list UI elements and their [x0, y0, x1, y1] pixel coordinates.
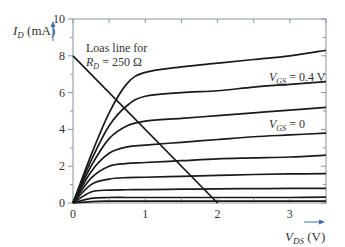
- x-axis-arrow-icon: [304, 220, 325, 225]
- load-line-label: Loas line for: [86, 41, 147, 55]
- y-tick-label: 2: [59, 159, 65, 173]
- y-axis-label: ID (mA): [12, 23, 55, 40]
- drain-curve: [73, 133, 326, 203]
- load-line-resistance-label: RD = 250 Ω: [85, 55, 142, 71]
- x-tick-label: 0: [70, 207, 76, 221]
- vgs-0.4-label: VGS = 0.4 V: [269, 70, 326, 86]
- x-axis-label: VDS (V): [285, 229, 325, 246]
- mosfet-characteristics-chart: 02468100123 ID (mA) VDS (V) Loas line fo…: [0, 0, 345, 247]
- y-tick-label: 0: [59, 196, 65, 210]
- y-tick-label: 8: [59, 49, 65, 63]
- y-tick-label: 4: [59, 122, 65, 136]
- load-line: [73, 56, 218, 203]
- x-tick-label: 3: [287, 207, 293, 221]
- drain-curve: [73, 197, 326, 203]
- y-tick-label: 6: [59, 86, 65, 100]
- vgs-0-label: VGS = 0: [269, 117, 305, 133]
- x-tick-label: 2: [215, 207, 221, 221]
- x-tick-label: 1: [142, 207, 148, 221]
